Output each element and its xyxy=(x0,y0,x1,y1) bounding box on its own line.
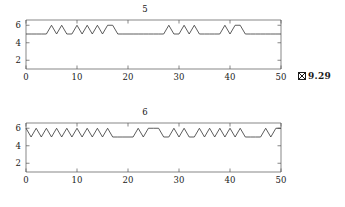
svg-text:4: 4 xyxy=(16,141,21,151)
svg-text:2: 2 xyxy=(16,158,21,168)
svg-text:4: 4 xyxy=(16,38,21,48)
svg-text:50: 50 xyxy=(276,175,287,185)
svg-text:10: 10 xyxy=(72,72,83,82)
figure-9-30: 6 01020304050246 9.30 xyxy=(0,103,345,206)
figure-caption-1: 9.29 xyxy=(298,71,331,81)
svg-text:30: 30 xyxy=(174,175,185,185)
svg-text:6: 6 xyxy=(16,20,21,30)
svg-text:6: 6 xyxy=(16,123,21,133)
plot-area-2: 6 01020304050246 xyxy=(0,103,290,206)
svg-text:50: 50 xyxy=(276,72,287,82)
line-chart-1: 01020304050246 xyxy=(0,0,290,103)
svg-text:30: 30 xyxy=(174,72,185,82)
line-chart-2: 01020304050246 xyxy=(0,103,290,206)
svg-text:0: 0 xyxy=(23,175,28,185)
svg-text:2: 2 xyxy=(16,55,21,65)
svg-text:10: 10 xyxy=(72,175,83,185)
figure-9-29: 5 01020304050246 9.29 xyxy=(0,0,345,103)
plot-area-1: 5 01020304050246 xyxy=(0,0,290,103)
figure-caption-number-1: 9.29 xyxy=(308,71,331,81)
svg-text:40: 40 xyxy=(225,175,236,185)
svg-text:0: 0 xyxy=(23,72,28,82)
svg-text:20: 20 xyxy=(123,175,134,185)
svg-text:20: 20 xyxy=(123,72,134,82)
cjk-glyph-box-icon xyxy=(298,72,306,80)
svg-text:40: 40 xyxy=(225,72,236,82)
